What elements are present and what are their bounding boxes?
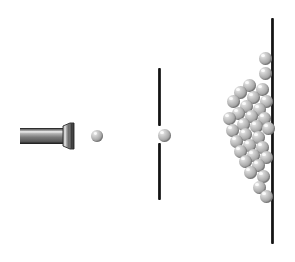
bullet-in-flight — [91, 130, 103, 142]
bullet-impact — [227, 95, 240, 108]
gun-barrel — [20, 128, 65, 144]
bullet-passing-slit — [158, 129, 171, 142]
diagram-canvas — [0, 0, 295, 262]
bullet-impact — [259, 67, 272, 80]
gun-muzzle — [63, 123, 74, 149]
slit-barrier-lower-segment — [158, 143, 161, 200]
bullet-impact — [244, 166, 257, 179]
slit-barrier-upper-segment — [158, 68, 161, 126]
bullet-impact — [260, 190, 273, 203]
bullet-impact — [259, 52, 272, 65]
bullet-impact — [223, 112, 236, 125]
